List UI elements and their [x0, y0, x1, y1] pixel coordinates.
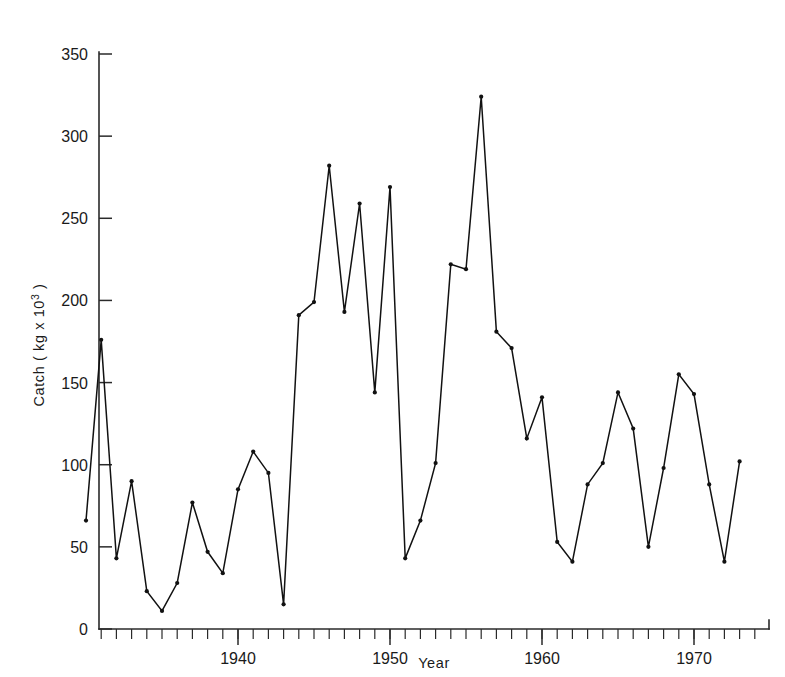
data-point [114, 556, 118, 560]
x-axis-minor-ticks [101, 629, 755, 639]
data-point [282, 602, 286, 606]
data-point [722, 560, 726, 564]
data-point [494, 330, 498, 334]
data-point [601, 461, 605, 465]
data-point [297, 313, 301, 317]
y-tick-label: 250 [61, 210, 88, 227]
data-point [206, 550, 210, 554]
data-point [434, 461, 438, 465]
catch-series-line [86, 97, 740, 611]
data-point [160, 609, 164, 613]
line-chart-canvas: 050100150200250300350 1940195019601970 C… [0, 0, 785, 677]
data-point [221, 571, 225, 575]
chart-figure: 050100150200250300350 1940195019601970 C… [0, 0, 785, 677]
data-point [631, 426, 635, 430]
data-point [130, 479, 134, 483]
catch-series-markers [84, 95, 742, 613]
data-point [449, 262, 453, 266]
data-point [692, 392, 696, 396]
data-point [342, 310, 346, 314]
data-point [145, 589, 149, 593]
y-tick-label: 150 [61, 375, 88, 392]
data-point [479, 95, 483, 99]
data-point [312, 300, 316, 304]
x-tick-label: 1970 [676, 650, 712, 667]
data-point [738, 459, 742, 463]
data-point [251, 449, 255, 453]
data-point [525, 436, 529, 440]
data-point [510, 346, 514, 350]
data-point [662, 466, 666, 470]
y-tick-label: 300 [61, 128, 88, 145]
data-point [555, 540, 559, 544]
data-point [570, 560, 574, 564]
data-point [266, 471, 270, 475]
data-point [464, 267, 468, 271]
y-tick-label: 350 [61, 46, 88, 63]
y-tick-label: 50 [70, 539, 88, 556]
data-point [646, 545, 650, 549]
data-point [190, 500, 194, 504]
y-axis-title: Catch ( kg x 103 ) [29, 283, 47, 406]
data-point [388, 185, 392, 189]
y-tick-label: 100 [61, 457, 88, 474]
data-point [616, 390, 620, 394]
data-point [707, 482, 711, 486]
x-tick-label: 1940 [220, 650, 256, 667]
x-axis-title: Year [418, 655, 450, 671]
y-tick-label: 0 [79, 621, 88, 638]
data-point [84, 518, 88, 522]
data-point [358, 201, 362, 205]
x-axis-tick-labels: 1940195019601970 [220, 650, 712, 667]
data-point [677, 372, 681, 376]
data-point [175, 581, 179, 585]
x-tick-label: 1950 [372, 650, 408, 667]
x-tick-label: 1960 [524, 650, 560, 667]
data-point [236, 487, 240, 491]
data-point [327, 164, 331, 168]
data-point [99, 338, 103, 342]
data-point [418, 518, 422, 522]
y-tick-label: 200 [61, 292, 88, 309]
data-point [586, 482, 590, 486]
data-point [373, 390, 377, 394]
data-point [540, 395, 544, 399]
y-axis-tick-labels: 050100150200250300350 [61, 46, 88, 638]
data-point [403, 556, 407, 560]
